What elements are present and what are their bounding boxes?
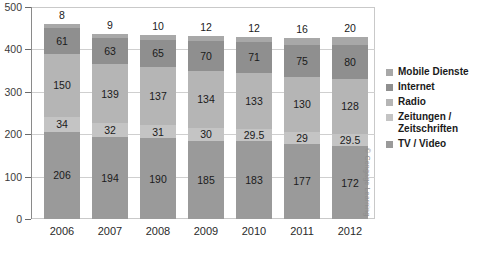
bar-segment: 150 (44, 54, 80, 118)
bar-group: 20634150618 (44, 24, 80, 219)
bar-segment: 16 (284, 38, 320, 45)
bar-segment: 172 (332, 146, 368, 219)
bar-segment: 190 (140, 138, 176, 219)
bar-segment-label-above: 9 (92, 20, 128, 31)
bar-segment-label: 32 (92, 125, 128, 136)
legend-item: Radio (386, 96, 481, 108)
x-axis-label: 2007 (88, 226, 132, 237)
x-axis-label: 2006 (40, 226, 84, 237)
bar-segment: 30 (188, 128, 224, 141)
bar-segment-label: 194 (92, 173, 128, 184)
bar-segment: 75 (284, 45, 320, 77)
legend-swatch (386, 99, 393, 106)
bar-segment: 133 (236, 73, 272, 129)
bar-segment-label: 183 (236, 175, 272, 186)
bar-segment: 63 (92, 38, 128, 65)
bar-segment: 34 (44, 117, 80, 131)
bar-segment-label: 65 (140, 48, 176, 59)
bar-segment: 8 (44, 24, 80, 27)
bar-segment: 29.5 (236, 129, 272, 142)
bar-segment-label: 75 (284, 55, 320, 66)
legend-label: Zeitungen / Zeitschriften (398, 111, 458, 135)
bar-segment: 139 (92, 64, 128, 123)
bar-segment-label: 206 (44, 170, 80, 181)
bar-segment: 206 (44, 132, 80, 219)
bar-segment-label: 137 (140, 91, 176, 102)
bar-group: 190311376510 (140, 35, 176, 219)
bar-segment: 183 (236, 141, 272, 219)
bar-segment-label: 80 (332, 57, 368, 68)
bar-segment-label: 134 (188, 94, 224, 105)
x-axis-label: 2012 (328, 226, 372, 237)
bar-segment-label: 34 (44, 119, 80, 130)
bar-segment-label: 130 (284, 99, 320, 110)
bar-segment: 12 (236, 37, 272, 42)
legend-swatch (386, 84, 393, 91)
bar-segment: 10 (140, 35, 176, 39)
legend-item: Mobile Dienste (386, 66, 481, 78)
legend-label: Mobile Dienste (398, 66, 469, 78)
bar-segment-label: 128 (332, 101, 368, 112)
legend-swatch (386, 114, 393, 121)
chart-figure: 0100200300400500 20634150618194321396391… (0, 0, 481, 257)
bar-segment: 137 (140, 67, 176, 125)
bar-segment-label: 63 (92, 46, 128, 57)
bar-segment: 71 (236, 42, 272, 72)
bar-segment-label-above: 12 (236, 23, 272, 34)
x-axis-label: 2010 (232, 226, 276, 237)
bar-group: 17229.51288020 (332, 37, 368, 219)
bar-segment: 80 (332, 45, 368, 79)
bar-segment: 12 (188, 36, 224, 41)
legend-swatch (386, 69, 393, 76)
legend-label: TV / Video (398, 138, 446, 150)
bar-segment: 9 (92, 34, 128, 38)
x-axis-label: 2011 (280, 226, 324, 237)
legend-item: Zeitungen / Zeitschriften (386, 111, 481, 135)
bar-segment-label: 172 (332, 177, 368, 188)
bar-segment-label: 30 (188, 129, 224, 140)
bar-group: 177291307516 (284, 38, 320, 219)
bar-segment-label: 29 (284, 133, 320, 144)
bar-segment-label: 31 (140, 127, 176, 138)
legend-label: Internet (398, 81, 435, 93)
bar-segment-label: 29.5 (236, 130, 272, 141)
bar-segment-label: 133 (236, 95, 272, 106)
bar-segment: 185 (188, 141, 224, 219)
bar-segment: 70 (188, 41, 224, 71)
bar-segment-label-above: 8 (44, 10, 80, 21)
bar-segment: 177 (284, 144, 320, 219)
legend-item: TV / Video (386, 138, 481, 150)
bar-segment: 130 (284, 77, 320, 132)
bar-group: 19432139639 (92, 34, 128, 219)
bar-segment: 134 (188, 71, 224, 128)
bar-segment-label-above: 12 (188, 22, 224, 33)
bar-segment: 31 (140, 125, 176, 138)
bar-segment-label: 71 (236, 52, 272, 63)
bar-segment-label: 150 (44, 80, 80, 91)
legend-item: Internet (386, 81, 481, 93)
legend-swatch (386, 141, 393, 148)
bar-segment-label: 139 (92, 88, 128, 99)
bar-segment-label-above: 10 (140, 21, 176, 32)
bar-segment-label: 29.5 (332, 135, 368, 146)
bar-segment: 194 (92, 137, 128, 219)
bar-segment-label: 70 (188, 51, 224, 62)
bar-segment-label: 190 (140, 173, 176, 184)
bar-segment: 61 (44, 28, 80, 54)
bar-segment-label-above: 16 (284, 24, 320, 35)
bar-group: 18329.51337112 (236, 37, 272, 219)
bar-segment: 29.5 (332, 134, 368, 147)
legend-label: Radio (398, 96, 426, 108)
bar-segment: 128 (332, 79, 368, 133)
bar-segment-label: 177 (284, 176, 320, 187)
bar-segment-label-above: 20 (332, 23, 368, 34)
bar-segment: 65 (140, 40, 176, 68)
attribution-label: © Cengage Learning (364, 148, 371, 216)
bar-segment: 20 (332, 37, 368, 45)
x-axis-label: 2009 (184, 226, 228, 237)
bar-segment: 29 (284, 132, 320, 144)
chart-legend: Mobile DiensteInternetRadioZeitungen / Z… (386, 66, 481, 153)
x-axis-label: 2008 (136, 226, 180, 237)
bar-segment: 32 (92, 123, 128, 137)
bar-segment-label: 61 (44, 35, 80, 46)
